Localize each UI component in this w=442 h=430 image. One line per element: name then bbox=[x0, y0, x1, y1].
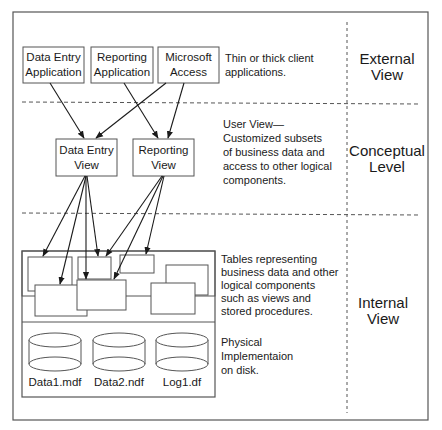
svg-text:Tables representing: Tables representing bbox=[221, 253, 317, 265]
svg-text:Implementaion: Implementaion bbox=[221, 350, 293, 362]
table-box bbox=[78, 257, 111, 279]
table-box bbox=[151, 283, 195, 314]
svg-text:User View—: User View— bbox=[223, 118, 284, 130]
database-file-log1: Log1.df bbox=[156, 333, 208, 388]
svg-text:Log1.df: Log1.df bbox=[163, 376, 202, 388]
svg-text:logical components: logical components bbox=[221, 279, 316, 291]
physical-description: Physical Implementaion on disk. bbox=[221, 336, 293, 376]
svg-text:Customized subsets: Customized subsets bbox=[223, 132, 323, 144]
svg-text:View: View bbox=[74, 159, 99, 171]
svg-text:Data1.mdf: Data1.mdf bbox=[28, 376, 82, 388]
svg-text:Application: Application bbox=[94, 66, 150, 78]
arrows-apps-to-views bbox=[50, 83, 184, 138]
database-file-data1: Data1.mdf bbox=[28, 333, 82, 388]
level-external-view: External View bbox=[359, 50, 414, 83]
svg-text:Reporting: Reporting bbox=[139, 144, 189, 156]
database-architecture-diagram: Data Entry Application Reporting Applica… bbox=[0, 0, 442, 430]
svg-text:Data2.ndf: Data2.ndf bbox=[94, 376, 145, 388]
svg-text:of business data and: of business data and bbox=[223, 146, 325, 158]
svg-text:business data and other: business data and other bbox=[221, 266, 339, 278]
svg-text:Thin or thick client: Thin or thick client bbox=[225, 52, 314, 64]
svg-text:View: View bbox=[151, 159, 176, 171]
client-description: Thin or thick client applications. bbox=[225, 52, 314, 78]
svg-text:Microsoft: Microsoft bbox=[165, 51, 212, 63]
svg-text:stored procedures.: stored procedures. bbox=[221, 305, 313, 317]
table-boxes bbox=[28, 255, 208, 316]
tables-description: Tables representing business data and ot… bbox=[221, 253, 339, 317]
database-file-data2: Data2.ndf bbox=[93, 333, 145, 388]
svg-text:Data Entry: Data Entry bbox=[59, 144, 114, 156]
svg-text:Reporting: Reporting bbox=[97, 51, 147, 63]
table-box bbox=[120, 255, 154, 273]
client-app-data-entry: Data Entry Application bbox=[23, 47, 84, 83]
table-box bbox=[77, 280, 126, 310]
level-conceptual: Conceptual Level bbox=[349, 142, 425, 175]
svg-text:View: View bbox=[367, 310, 399, 327]
separator-external-conceptual bbox=[22, 102, 420, 104]
svg-text:Access: Access bbox=[170, 66, 207, 78]
svg-text:access to other logical: access to other logical bbox=[223, 160, 332, 172]
svg-text:Physical: Physical bbox=[221, 336, 262, 348]
svg-text:Data Entry: Data Entry bbox=[26, 51, 81, 63]
client-app-reporting: Reporting Application bbox=[91, 47, 153, 83]
svg-text:components.: components. bbox=[223, 174, 286, 186]
view-reporting: Reporting View bbox=[133, 139, 194, 176]
separator-conceptual-internal bbox=[22, 213, 420, 215]
level-internal-view: Internal View bbox=[358, 294, 408, 327]
view-description: User View— Customized subsets of busines… bbox=[223, 118, 332, 186]
svg-text:Internal: Internal bbox=[358, 294, 408, 311]
svg-text:External: External bbox=[359, 50, 414, 67]
svg-text:View: View bbox=[371, 66, 403, 83]
svg-text:Conceptual: Conceptual bbox=[349, 142, 425, 159]
view-data-entry: Data Entry View bbox=[56, 139, 117, 176]
svg-text:Application: Application bbox=[25, 66, 81, 78]
client-app-microsoft-access: Microsoft Access bbox=[158, 47, 219, 83]
svg-text:such as views and: such as views and bbox=[221, 292, 311, 304]
svg-text:Level: Level bbox=[369, 158, 405, 175]
svg-text:applications.: applications. bbox=[225, 66, 286, 78]
svg-text:on disk.: on disk. bbox=[221, 364, 259, 376]
